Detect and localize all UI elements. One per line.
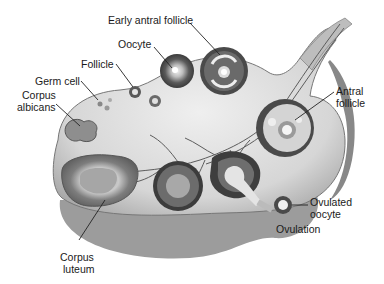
ligament (300, 18, 352, 70)
label-ovulated-oocyte-line2: oocyte (310, 208, 341, 220)
label-germ-cell: Germ cell (35, 75, 80, 87)
antral-follicle (256, 99, 314, 157)
label-follicle: Follicle (81, 58, 114, 70)
label-ovulation: Ovulation (276, 223, 320, 235)
small-follicle-2 (149, 95, 161, 107)
label-corpus-albicans-line1: Corpus (22, 89, 56, 101)
atretic-follicle (153, 161, 203, 211)
label-corpus-luteum-line1: Corpus (60, 251, 94, 263)
label-early-antral-follicle: Early antral follicle (108, 14, 193, 26)
ovary-illustration (0, 0, 384, 284)
small-follicle-1 (129, 86, 141, 98)
label-antral-follicle-line1: Antral (336, 85, 363, 97)
label-oocyte: Oocyte (118, 38, 151, 50)
label-corpus-albicans-line2: albicans (17, 101, 56, 113)
corpus-albicans (65, 119, 97, 141)
label-ovulated-oocyte-line1: Ovulated (310, 196, 352, 208)
label-antral-follicle-line2: follicle (336, 97, 365, 109)
ovulated-oocyte (274, 196, 292, 214)
label-corpus-luteum-line2: luteum (63, 263, 95, 275)
oocyte-follicle (160, 54, 194, 88)
early-antral-follicle (200, 47, 248, 95)
